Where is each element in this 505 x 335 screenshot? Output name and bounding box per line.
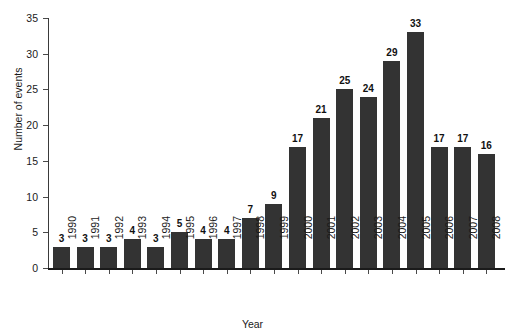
x-tick-label: 1999 bbox=[278, 216, 290, 276]
x-tick-mark bbox=[180, 270, 181, 274]
x-tick-mark bbox=[321, 270, 322, 274]
x-tick-label: 2001 bbox=[325, 216, 337, 276]
x-axis-title: Year bbox=[0, 318, 505, 330]
x-tick-label: 2004 bbox=[396, 216, 408, 276]
x-tick-label: 2007 bbox=[467, 216, 479, 276]
bar-value-label: 17 bbox=[283, 133, 312, 145]
x-tick-mark bbox=[463, 270, 464, 274]
x-tick-mark bbox=[368, 270, 369, 274]
x-tick-mark bbox=[439, 270, 440, 274]
x-tick-label: 1996 bbox=[207, 216, 219, 276]
x-tick-label: 1998 bbox=[254, 216, 266, 276]
x-tick-mark bbox=[203, 270, 204, 274]
y-tick-label: 10 bbox=[26, 190, 38, 204]
x-tick-label: 2002 bbox=[349, 216, 361, 276]
y-tick-label: 0 bbox=[32, 261, 38, 275]
bar-value-label: 7 bbox=[236, 204, 265, 216]
x-tick-label: 1995 bbox=[184, 216, 196, 276]
x-tick-label: 1991 bbox=[89, 216, 101, 276]
x-tick-label: 1993 bbox=[136, 216, 148, 276]
x-tick-label: 1990 bbox=[66, 216, 78, 276]
x-tick-label: 2000 bbox=[302, 216, 314, 276]
y-tick-label: 15 bbox=[26, 154, 38, 168]
x-tick-label: 2005 bbox=[420, 216, 432, 276]
x-tick-mark bbox=[109, 270, 110, 274]
x-tick-mark bbox=[345, 270, 346, 274]
bar-value-label: 29 bbox=[377, 47, 406, 59]
x-tick-mark bbox=[250, 270, 251, 274]
cropped-title-sliver bbox=[28, 0, 268, 3]
x-tick-mark bbox=[298, 270, 299, 274]
x-tick-label: 2006 bbox=[443, 216, 455, 276]
bar-value-label: 16 bbox=[472, 140, 501, 152]
x-tick-mark bbox=[62, 270, 63, 274]
x-tick-label: 1992 bbox=[113, 216, 125, 276]
y-tick-label: 35 bbox=[26, 11, 38, 25]
x-tick-mark bbox=[227, 270, 228, 274]
x-tick-mark bbox=[392, 270, 393, 274]
x-tick-label: 1997 bbox=[231, 216, 243, 276]
bar-value-label: 33 bbox=[401, 18, 430, 30]
y-axis-title: Number of events bbox=[12, 29, 24, 189]
bar-value-label: 9 bbox=[259, 190, 288, 202]
y-tick-label: 25 bbox=[26, 82, 38, 96]
bar-value-label: 21 bbox=[307, 104, 336, 116]
y-tick-label: 20 bbox=[26, 118, 38, 132]
x-tick-label: 1994 bbox=[160, 216, 172, 276]
x-tick-mark bbox=[486, 270, 487, 274]
x-tick-label: 2003 bbox=[372, 216, 384, 276]
x-tick-mark bbox=[274, 270, 275, 274]
y-tick-label: 30 bbox=[26, 47, 38, 61]
x-tick-mark bbox=[85, 270, 86, 274]
bar-value-label: 24 bbox=[354, 83, 383, 95]
x-tick-mark bbox=[156, 270, 157, 274]
x-tick-mark bbox=[132, 270, 133, 274]
y-tick-label: 5 bbox=[32, 225, 38, 239]
x-tick-label: 2008 bbox=[490, 216, 502, 276]
bar-chart: Number of events 05101520253035 33343544… bbox=[0, 0, 505, 335]
x-tick-mark bbox=[416, 270, 417, 274]
